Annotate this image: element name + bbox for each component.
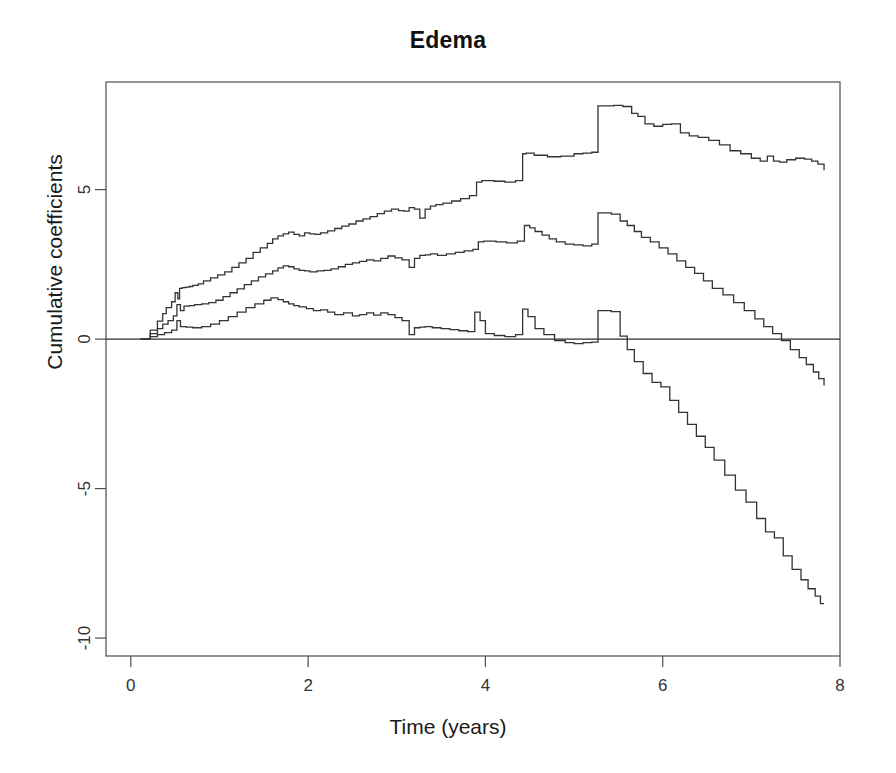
- series-line-upper-band: [141, 105, 824, 339]
- y-tick-label: 5: [75, 185, 94, 194]
- x-tick-label: 0: [126, 676, 135, 695]
- y-tick-label: 0: [75, 334, 94, 343]
- chart-figure: Edema Cumulative coefficients Time (year…: [0, 0, 896, 773]
- axis-ticks: [95, 190, 840, 667]
- plot-area: 0246850-5-10: [0, 0, 896, 773]
- data-series: [141, 105, 824, 603]
- x-tick-label: 2: [303, 676, 312, 695]
- plot-frame-rect: [106, 82, 840, 656]
- series-line-lower-band: [141, 298, 824, 604]
- y-tick-label: -10: [75, 626, 94, 651]
- x-tick-label: 6: [658, 676, 667, 695]
- plot-frame: [106, 82, 840, 656]
- x-tick-label: 4: [481, 676, 490, 695]
- axis-tick-labels: 0246850-5-10: [75, 185, 844, 695]
- x-tick-label: 8: [835, 676, 844, 695]
- y-tick-label: -5: [75, 481, 94, 496]
- series-line-estimate: [141, 213, 824, 385]
